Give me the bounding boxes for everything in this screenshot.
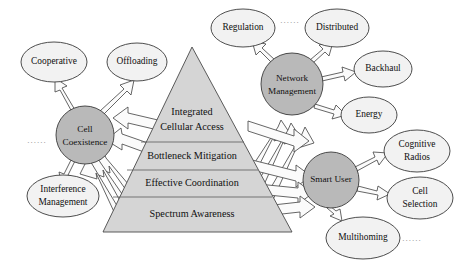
leaf-cell-selection-label-line1: Cell [412, 186, 428, 196]
leaf-cognitive-radios[interactable]: Cognitive Radios [384, 130, 450, 172]
leaf-backhaul[interactable]: Backhaul [354, 51, 412, 87]
leaf-cognitive-radios-ellipse[interactable] [384, 130, 450, 172]
tier-3-label: Effective Coordination [145, 177, 238, 188]
arrow-networkmgmt-to-backhaul [321, 67, 356, 81]
hub-smart-user-label-line1: Smart User [310, 174, 352, 184]
leaf-interference-management-label-line1: Interference [40, 184, 85, 194]
tier-4-label: Spectrum Awareness [150, 208, 235, 219]
leaf-energy-label: Energy [356, 109, 383, 119]
leaf-multihoming-label: Multihoming [338, 232, 388, 242]
leaf-cell-selection-label-line2: Selection [403, 199, 438, 209]
leaf-energy[interactable]: Energy [341, 97, 397, 133]
arrow-smartuser-to-cognitive [355, 152, 388, 171]
arrow-smartuser-to-cellselection [357, 186, 390, 200]
diagram-canvas: Integrated Cellular Access Bottleneck Mi… [0, 0, 463, 277]
hub-cell-coexistence-circle[interactable] [56, 106, 114, 164]
hub-network-management-label-line2: Management [268, 86, 316, 96]
leaf-cell-selection[interactable]: Cell Selection [387, 177, 453, 219]
leaf-regulation-label: Regulation [222, 22, 263, 32]
leaf-backhaul-label: Backhaul [365, 63, 401, 73]
leaf-interference-management-label-line2: Management [39, 197, 88, 207]
ellipsis-top: ...... [280, 15, 300, 25]
arrow-cellcoexistence-to-offloading [100, 80, 134, 114]
hub-smart-user[interactable]: Smart User [303, 152, 359, 208]
arrow-cellcoexistence-to-cooperative [55, 78, 75, 112]
leaf-cell-selection-ellipse[interactable] [387, 177, 453, 219]
hub-cell-coexistence[interactable]: Cell Coexistence [56, 106, 114, 164]
tier-apex-label-line2: Cellular Access [160, 121, 224, 132]
leaf-cooperative-label: Cooperative [31, 56, 77, 66]
ellipsis-bottom: ...... [402, 233, 422, 243]
leaf-interference-management-ellipse[interactable] [27, 175, 99, 217]
hub-cell-coexistence-label-line1: Cell [77, 124, 93, 134]
ellipsis-left: ...... [27, 135, 47, 145]
hub-cell-coexistence-label-line2: Coexistence [63, 137, 108, 147]
leaf-interference-management[interactable]: Interference Management [27, 175, 99, 217]
tier-apex-label-line1: Integrated [171, 106, 212, 117]
leaf-offloading[interactable]: Offloading [107, 43, 167, 81]
leaf-cognitive-radios-label-line1: Cognitive [399, 139, 436, 149]
leaf-cognitive-radios-label-line2: Radios [404, 152, 430, 162]
hub-network-management-label-line1: Network [276, 73, 309, 83]
leaf-regulation[interactable]: Regulation [211, 9, 275, 47]
leaf-distributed-label: Distributed [316, 22, 358, 32]
leaf-cooperative[interactable]: Cooperative [21, 42, 87, 82]
leaf-multihoming[interactable]: Multihoming [326, 217, 400, 259]
hub-network-management-circle[interactable] [261, 53, 323, 115]
hub-network-management[interactable]: Network Management [261, 53, 323, 115]
leaf-distributed[interactable]: Distributed [305, 9, 369, 47]
tier-2-label: Bottleneck Mitigation [147, 150, 237, 161]
diagram-root: Integrated Cellular Access Bottleneck Mi… [0, 0, 463, 277]
leaf-offloading-label: Offloading [117, 56, 158, 66]
